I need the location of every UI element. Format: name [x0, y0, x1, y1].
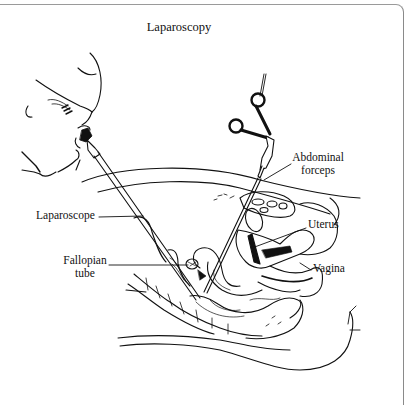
vagina-leader — [300, 263, 311, 270]
label-fallopian-tube: Fallopian tube — [60, 254, 110, 280]
label-abdominal-forceps-line2: forceps — [290, 164, 346, 177]
label-uterus: Uterus — [308, 218, 339, 231]
label-fallopian-tube-line1: Fallopian — [60, 254, 110, 267]
label-abdominal-forceps-line1: Abdominal — [290, 151, 346, 164]
forceps-leader — [264, 164, 291, 180]
label-vagina: Vagina — [313, 262, 345, 275]
label-laparoscope: Laparoscope — [36, 209, 95, 222]
label-abdominal-forceps: Abdominal forceps — [290, 151, 346, 177]
uterus-leader — [252, 228, 306, 248]
label-fallopian-tube-line2: tube — [60, 267, 110, 280]
surgeon-head — [22, 53, 101, 176]
